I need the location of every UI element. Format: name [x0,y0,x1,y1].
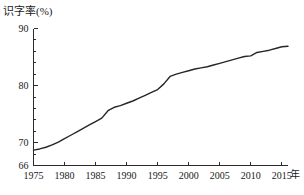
y-tick-label: 70 [19,137,29,148]
x-tick-label: 2000 [179,170,199,181]
x-tick-label: 1995 [148,170,168,181]
x-tick-label: 2005 [210,170,230,181]
x-axis-unit-label: 年 [290,168,300,180]
x-tick-label: 2015 [272,170,292,181]
x-tick-label: 1985 [86,170,106,181]
chart-plot-area: 6670809019751980198519901995200020052010… [0,0,304,195]
x-tick-label: 1990 [117,170,137,181]
y-tick-label: 80 [19,80,29,91]
y-tick-label: 90 [19,23,29,34]
x-tick-label: 1980 [55,170,75,181]
x-tick-label: 1975 [24,170,44,181]
data-series-line [34,46,289,150]
x-tick-label: 2010 [241,170,261,181]
literacy-rate-chart: 识字率(%) 667080901975198019851990199520002… [0,0,304,195]
